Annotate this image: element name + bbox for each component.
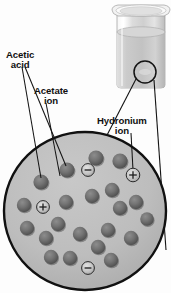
acetate-ion-lower	[82, 262, 95, 275]
label-hydronium-ion: Hydronium ion	[97, 116, 147, 136]
label-acetate-ion-line2: ion	[34, 96, 68, 106]
label-acetic-acid-line2: acid	[6, 60, 34, 70]
callout-source-speck	[139, 69, 151, 75]
figure-root: Acetic acid Acetate ion Hydronium ion	[0, 0, 171, 293]
beaker-mouth-inner	[120, 7, 162, 16]
label-hydronium-ion-line2: ion	[97, 126, 147, 136]
hydronium-ion-left	[37, 201, 50, 214]
beaker-with-solution	[112, 5, 170, 88]
label-acetic-acid: Acetic acid	[6, 50, 34, 70]
label-acetate-ion: Acetate ion	[34, 86, 68, 106]
diagram-canvas	[0, 0, 171, 293]
liquid-surface	[117, 27, 165, 37]
acetate-ion-upper	[82, 164, 95, 177]
beaker-liquid	[117, 32, 165, 88]
hydronium-ion-right	[126, 168, 140, 182]
